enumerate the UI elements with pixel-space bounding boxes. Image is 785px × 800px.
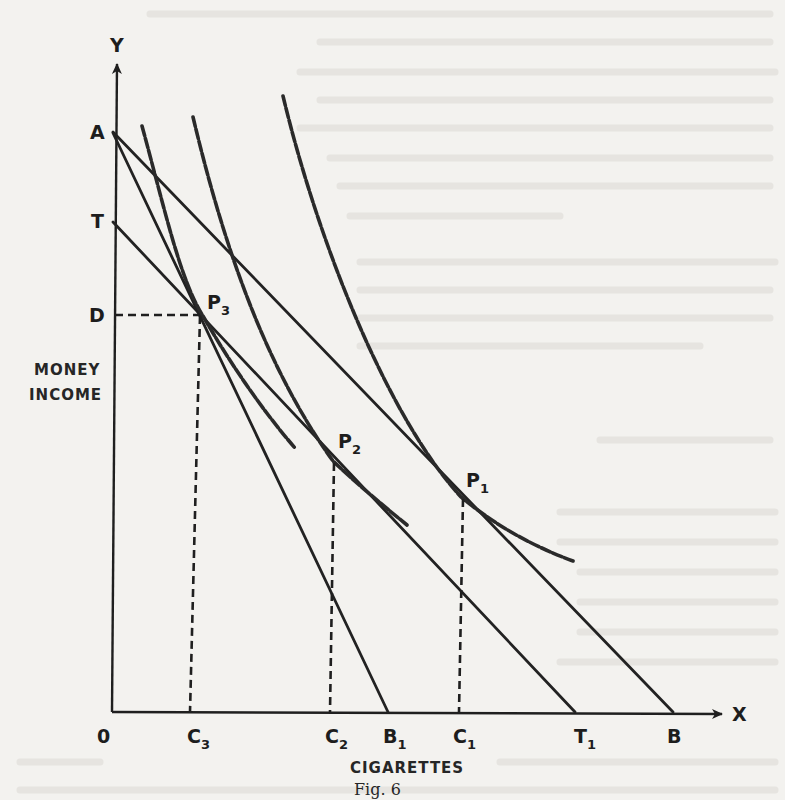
x-axis-title: CIGARETTES <box>350 759 464 777</box>
indifference-curve-diagram: Y X 0 A T D MONEY INCOME P3 P2 P1 C3 C2 … <box>0 0 785 800</box>
point-A-label: A <box>90 121 105 143</box>
guide-P1-C1 <box>459 499 463 712</box>
point-B1-label: B1 <box>383 725 407 752</box>
point-C2-label: C2 <box>325 725 348 752</box>
indifference-curve-P2 <box>193 117 407 525</box>
point-P2-label: P2 <box>338 430 361 457</box>
guide-P3-C3 <box>190 316 200 712</box>
budget-line-AB1 <box>113 133 388 712</box>
guide-P2-C2 <box>330 463 334 712</box>
y-axis-label: Y <box>109 34 124 56</box>
book-page: Y X 0 A T D MONEY INCOME P3 P2 P1 C3 C2 … <box>0 0 785 800</box>
point-P1-label: P1 <box>466 469 489 496</box>
point-D-label: D <box>89 304 105 326</box>
origin-label: 0 <box>97 725 110 747</box>
guide-lines <box>115 315 463 712</box>
point-C3-label: C3 <box>187 725 210 752</box>
x-axis <box>112 712 722 714</box>
x-axis-label: X <box>732 703 747 725</box>
budget-line-TT1 <box>113 222 575 712</box>
y-axis-title-line2: INCOME <box>29 386 102 404</box>
indifference-curve-P3 <box>142 126 295 448</box>
point-T1-label: T1 <box>574 725 596 752</box>
point-C1-label: C1 <box>453 725 476 752</box>
point-P3-label: P3 <box>207 291 230 318</box>
point-T-label: T <box>91 210 104 232</box>
y-axis-title-line1: MONEY <box>34 361 100 379</box>
figure-caption: Fig. 6 <box>354 780 401 799</box>
indifference-curve-P1 <box>283 96 573 561</box>
point-B-label: B <box>667 725 681 747</box>
y-axis <box>112 64 117 712</box>
